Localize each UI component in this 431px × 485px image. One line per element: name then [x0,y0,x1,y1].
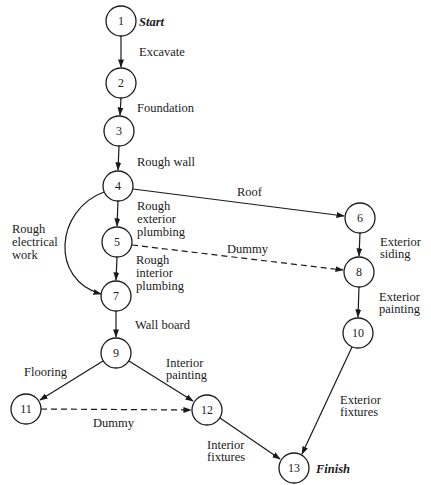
label-exterior-siding-2: siding [380,247,411,261]
label-rough-exterior-plumbing-2: exterior [137,212,177,226]
edge-3-4 [118,146,119,170]
label-exterior-fixtures-2: fixtures [340,405,378,419]
edge-2-3 [120,98,121,115]
node-12: 12 [192,395,222,425]
svg-text:9: 9 [113,346,119,360]
svg-text:1: 1 [118,14,124,28]
node-1: 1 [106,6,136,36]
svg-text:5: 5 [114,235,120,249]
node-8: 8 [344,257,374,287]
finish-label: Finish [315,462,350,476]
label-interior-painting-2: painting [166,368,208,382]
svg-text:10: 10 [352,326,364,340]
label-rough-exterior-plumbing-1: Rough [137,199,171,213]
edge-5-7 [116,257,117,280]
label-rough-interior-plumbing-3: plumbing [136,279,185,293]
svg-text:7: 7 [113,289,119,303]
label-dummy-5-8: Dummy [227,242,269,256]
node-11: 11 [11,394,41,424]
node-2: 2 [106,68,136,98]
svg-text:2: 2 [118,76,124,90]
label-rough-electrical-work-1: Rough [12,222,46,236]
label-rough-electrical-work-2: electrical [12,235,58,249]
node-6: 6 [345,203,375,233]
label-exterior-painting-2: painting [379,302,421,316]
node-7: 7 [101,281,131,311]
label-foundation: Foundation [137,101,195,115]
edge-8-10 [358,287,359,317]
label-roof: Roof [237,185,263,199]
svg-text:12: 12 [201,403,213,417]
svg-text:11: 11 [20,402,32,416]
label-rough-interior-plumbing-2: interior [136,266,174,280]
edge-4-5 [117,201,118,226]
svg-text:6: 6 [357,211,363,225]
edge-11-12-dummy [41,409,191,410]
node-4: 4 [103,171,133,201]
node-3: 3 [104,116,134,146]
label-dummy-11-12: Dummy [93,416,135,430]
label-rough-exterior-plumbing-3: plumbing [137,225,186,239]
start-label: Start [139,15,165,29]
svg-text:8: 8 [356,265,362,279]
project-network-diagram: 1 2 3 4 5 6 7 8 9 10 11 12 13 Start Fini… [0,0,431,485]
label-interior-fixtures-2: fixtures [207,450,245,464]
svg-text:13: 13 [288,461,300,475]
label-wall-board: Wall board [135,318,191,332]
node-9: 9 [101,338,131,368]
edges [40,36,360,459]
label-flooring: Flooring [24,365,68,379]
svg-text:4: 4 [115,179,121,193]
label-excavate: Excavate [139,45,185,59]
svg-text:3: 3 [116,124,122,138]
node-10: 10 [343,318,373,348]
label-rough-electrical-work-3: work [12,248,38,262]
node-13: 13 [279,453,309,483]
label-rough-wall: Rough wall [137,155,196,169]
label-rough-interior-plumbing-1: Rough [136,253,170,267]
node-5: 5 [102,227,132,257]
edge-6-8 [359,233,360,256]
edge-4-7 [65,192,104,294]
